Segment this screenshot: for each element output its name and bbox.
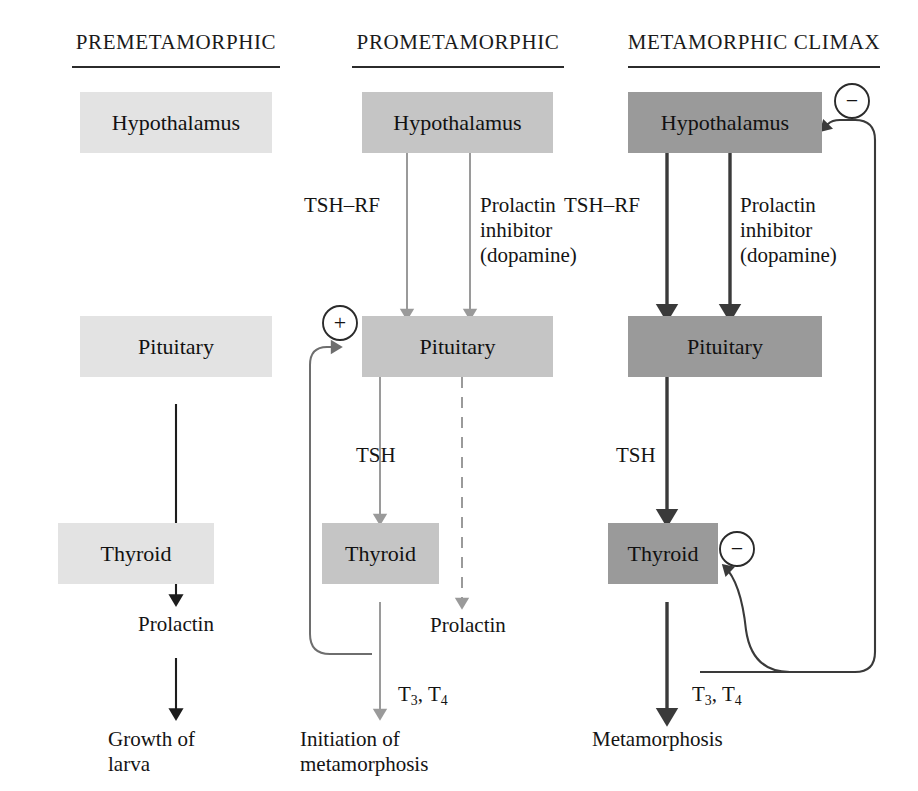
node-hypothalamus-col3: Hypothalamus [628,92,822,153]
t3t4-sub-4: 4 [441,693,448,708]
node-thyroid-col3: Thyroid [608,523,718,584]
t3t4-t1: T [398,682,411,706]
sign-minus-thyroid: − [721,536,753,562]
column-title-prometamorphic: PROMETAMORPHIC [318,30,598,55]
t3t4-sub-3-col3: 3 [705,693,712,708]
label-outcome-col1: Growth of larva [108,727,308,777]
label-tshrf-col3: TSH–RF [564,193,674,218]
node-hypothalamus-col2: Hypothalamus [362,92,553,153]
node-thyroid-col1: Thyroid [58,523,214,584]
node-pituitary-col3: Pituitary [628,316,822,377]
node-thyroid-col2: Thyroid [322,523,439,584]
label-outcome-col3: Metamorphosis [592,727,852,752]
t3t4-sub-3: 3 [411,693,418,708]
column-rule-3 [628,66,880,68]
t3t4-sep: , T [418,682,441,706]
label-tsh-col3: TSH [616,443,696,468]
label-tsh-col2: TSH [356,443,436,468]
node-pituitary-col1: Pituitary [80,316,272,377]
node-hypothalamus-col1: Hypothalamus [80,92,272,153]
label-tshrf-col2: TSH–RF [304,193,414,218]
label-prolactin-inhibitor-col3: Prolactin inhibitor (dopamine) [740,193,905,267]
label-prolactin-col1: Prolactin [96,612,256,637]
column-title-premetamorphic: PREMETAMORPHIC [36,30,316,55]
column-rule-2 [352,66,564,68]
t3t4-t1-col3: T [692,682,705,706]
sign-plus-col2: + [324,310,356,336]
node-pituitary-col2: Pituitary [362,316,553,377]
column-rule-1 [72,66,280,68]
diagram-canvas: PREMETAMORPHIC Hypothalamus Pituitary Th… [0,0,918,791]
sign-minus-hypothalamus: − [836,88,868,114]
label-outcome-col2: Initiation of metamorphosis [300,727,540,777]
label-prolactin-col2: Prolactin [430,613,570,638]
t3t4-sub-4-col3: 4 [735,693,742,708]
label-t3t4-col2: T3, T4 [398,657,518,710]
label-t3t4-col3: T3, T4 [692,657,812,710]
t3t4-sep-col3: , T [712,682,735,706]
column-title-metamorphic-climax: METAMORPHIC CLIMAX [604,30,904,55]
